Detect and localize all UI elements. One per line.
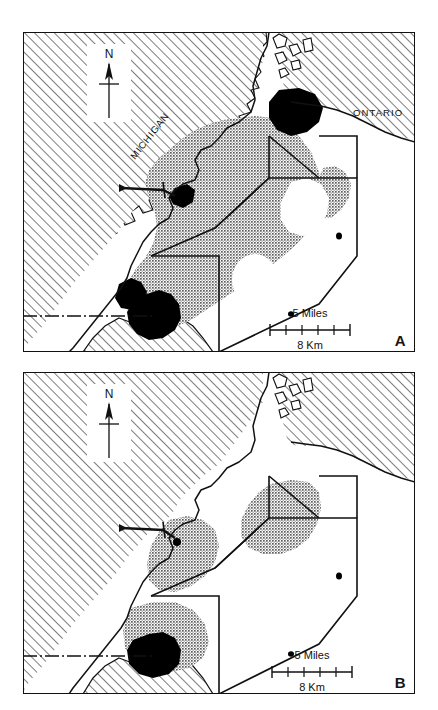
water-white-hole-south [232, 254, 278, 306]
figure-two-panel-map: N 5 Miles 8 Km [0, 0, 438, 710]
sample-point-marker [288, 651, 294, 657]
scale-bar-miles-label: 5 Miles [295, 649, 330, 661]
scale-bar-km-label: 8 Km [297, 339, 323, 351]
sample-point-marker [336, 572, 342, 579]
ghost-header-text [0, 0, 438, 26]
panel-a-letter: A [395, 333, 406, 348]
north-arrow: N [87, 384, 131, 462]
scale-bar-km-label: 8 Km [299, 681, 325, 693]
north-arrow-label: N [105, 387, 114, 401]
north-arrow-label: N [105, 47, 114, 61]
place-label-ontario: ONTARIO [353, 107, 403, 118]
panel-b-map-graphic: N 5 Miles 8 Km [23, 372, 415, 694]
panel-a-map-graphic: N 5 Miles 8 Km [23, 32, 415, 352]
panel-b-letter: B [395, 675, 406, 690]
scale-bar-miles-label: 5 Miles [293, 307, 328, 319]
map-panel-b: N 5 Miles 8 Km B [23, 372, 415, 694]
sample-point-marker [336, 232, 342, 239]
north-arrow: N [87, 44, 131, 122]
map-panel-a: N 5 Miles 8 Km [23, 32, 415, 352]
